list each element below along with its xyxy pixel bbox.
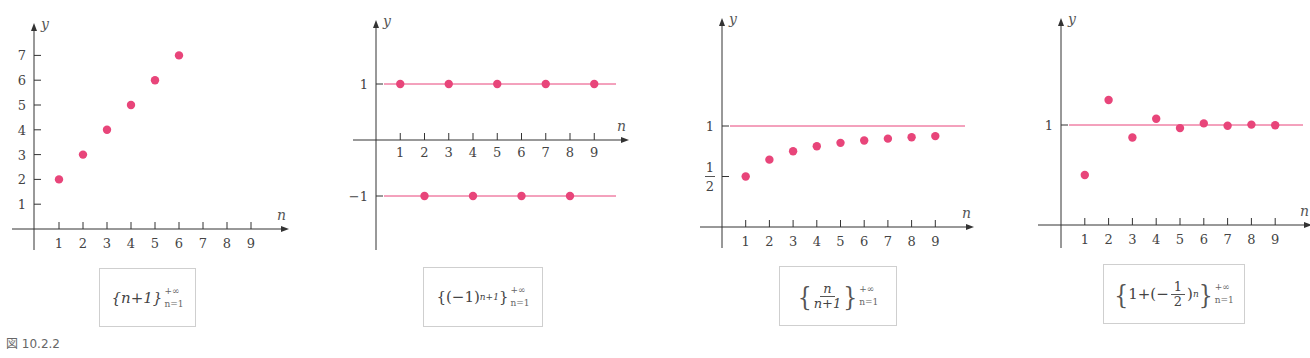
formula-box-a: {n+1} +∞ n=1 [99, 268, 196, 327]
fraction-numerator: 1 [1171, 280, 1185, 295]
axes: yn1234567891 [1038, 11, 1310, 248]
x-tick-label: 3 [1128, 232, 1136, 247]
formula-lower: n=1 [164, 298, 183, 311]
formula-lower: n=1 [510, 297, 529, 310]
x-tick-label: 6 [1200, 232, 1208, 247]
fraction: n n+1 [814, 282, 842, 311]
data-point [1200, 119, 1208, 127]
brace-open: { [798, 281, 812, 311]
data-points [1081, 96, 1280, 179]
data-point [1247, 120, 1255, 128]
formula-lower: n=1 [859, 296, 878, 309]
data-point [1176, 124, 1184, 132]
formula-lower: n=1 [1215, 294, 1234, 307]
data-point [1104, 96, 1112, 104]
formula-limits: +∞ n=1 [859, 283, 878, 309]
fraction: 1 2 [1171, 280, 1185, 309]
data-point [1271, 121, 1279, 129]
formula-limits: +∞ n=1 [1215, 281, 1234, 307]
data-point [1152, 115, 1160, 123]
formula-upper: +∞ [859, 283, 878, 296]
formula-prefix: 1+(− [1128, 285, 1169, 303]
brace-open: { [1114, 279, 1128, 309]
x-arrow-icon [1304, 222, 1310, 228]
formula-close: } [499, 288, 509, 306]
formula-upper: +∞ [164, 285, 183, 298]
brace-close: } [1199, 279, 1213, 309]
formula-limits: +∞ n=1 [510, 284, 529, 310]
formula-box-c: { n n+1 } +∞ n=1 [779, 266, 897, 326]
formula-box-d: { 1+(− 1 2 ) n } +∞ n=1 [1103, 264, 1245, 324]
fraction-numerator: n [820, 282, 834, 297]
x-tick-label: 2 [1104, 232, 1112, 247]
x-tick-label: 7 [1223, 232, 1231, 247]
figure-caption: 図 10.2.2 [6, 334, 60, 351]
x-tick-label: 5 [1176, 232, 1184, 247]
y-axis-label: y [1067, 11, 1077, 27]
y-arrow-icon [1058, 18, 1064, 26]
x-tick-label: 9 [1271, 232, 1279, 247]
formula-upper: +∞ [510, 284, 529, 297]
formula-main: {n+1} [112, 289, 163, 307]
data-point [1128, 133, 1136, 141]
x-tick-label: 8 [1247, 232, 1255, 247]
formula-limits: +∞ n=1 [164, 285, 183, 311]
data-point [1081, 171, 1089, 179]
x-axis-label: n [1300, 203, 1309, 219]
formula-box-b: {(−1) n+1 } +∞ n=1 [423, 267, 543, 327]
formula-main: {(−1) [436, 288, 479, 306]
formula-exponent: n+1 [480, 292, 499, 302]
brace-close: } [843, 281, 857, 311]
x-tick-label: 4 [1152, 232, 1160, 247]
formula-upper: +∞ [1215, 281, 1234, 294]
y-tick-label: 1 [1045, 118, 1053, 133]
data-point [1223, 122, 1231, 130]
fraction-denominator: n+1 [814, 297, 842, 311]
x-tick-label: 1 [1081, 232, 1089, 247]
fraction-denominator: 2 [1174, 295, 1182, 309]
